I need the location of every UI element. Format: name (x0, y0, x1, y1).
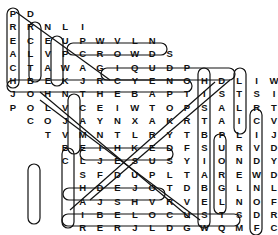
grid-cell[interactable]: G (180, 221, 194, 234)
grid-cell[interactable]: V (58, 101, 72, 114)
grid-cell[interactable]: E (145, 74, 159, 87)
grid-cell[interactable]: L (232, 74, 246, 87)
grid-cell[interactable]: D (250, 208, 264, 221)
grid-cell[interactable]: R (180, 114, 194, 127)
grid-cell[interactable]: C (6, 61, 20, 74)
grid-cell[interactable]: O (180, 74, 194, 87)
grid-cell[interactable]: K (128, 141, 142, 154)
grid-cell[interactable]: T (110, 128, 124, 141)
grid-cell[interactable]: H (128, 195, 142, 208)
grid-cell[interactable]: N (163, 74, 177, 87)
grid-cell[interactable]: S (197, 101, 211, 114)
grid-cell[interactable]: L (163, 168, 177, 181)
grid-cell[interactable]: R (76, 221, 90, 234)
grid-cell[interactable]: G (215, 181, 229, 194)
grid-cell[interactable]: H (93, 87, 107, 100)
grid-cell[interactable]: I (93, 141, 107, 154)
grid-cell[interactable]: O (250, 195, 264, 208)
grid-cell[interactable]: W (197, 221, 211, 234)
grid-cell[interactable]: N (110, 114, 124, 127)
grid-cell[interactable]: S (250, 87, 264, 100)
grid-cell[interactable]: A (215, 101, 229, 114)
grid-cell[interactable]: S (110, 195, 124, 208)
grid-cell[interactable]: D (180, 181, 194, 194)
grid-cell[interactable]: N (58, 87, 72, 100)
grid-cell[interactable]: D (110, 168, 124, 181)
grid-cell[interactable]: E (145, 141, 159, 154)
grid-cell[interactable]: N (232, 154, 246, 167)
grid-cell[interactable]: C (58, 154, 72, 167)
grid-cell[interactable]: L (232, 181, 246, 194)
grid-cell[interactable]: P (58, 47, 72, 60)
grid-cell[interactable]: C (23, 114, 37, 127)
grid-cell[interactable]: P (145, 168, 159, 181)
grid-cell[interactable]: D (250, 154, 264, 167)
grid-cell[interactable]: U (58, 34, 72, 47)
grid-cell[interactable]: P (6, 101, 20, 114)
grid-cell[interactable]: N (232, 195, 246, 208)
grid-cell[interactable]: I (197, 87, 211, 100)
grid-cell[interactable]: D (93, 181, 107, 194)
grid-cell[interactable]: D (163, 221, 177, 234)
grid-cell[interactable]: I (232, 114, 246, 127)
grid-cell[interactable]: A (215, 114, 229, 127)
grid-cell[interactable]: E (110, 87, 124, 100)
grid-cell[interactable]: V (180, 195, 194, 208)
grid-cell[interactable]: M (232, 221, 246, 234)
grid-cell[interactable]: B (93, 208, 107, 221)
grid-cell[interactable]: E (76, 141, 90, 154)
grid-cell[interactable]: I (250, 74, 264, 87)
grid-cell[interactable]: T (41, 128, 55, 141)
grid-cell[interactable]: S (215, 87, 229, 100)
grid-cell[interactable]: T (197, 114, 211, 127)
grid-cell[interactable]: B (128, 87, 142, 100)
grid-cell[interactable]: J (267, 128, 278, 141)
grid-cell[interactable]: R (6, 20, 20, 33)
grid-cell[interactable]: C (110, 74, 124, 87)
grid-cell[interactable]: B (197, 181, 211, 194)
grid-cell[interactable]: C (163, 208, 177, 221)
grid-cell[interactable]: I (110, 61, 124, 74)
grid-cell[interactable]: S (197, 141, 211, 154)
grid-cell[interactable]: L (58, 20, 72, 33)
grid-cell[interactable]: I (76, 208, 90, 221)
grid-cell[interactable]: N (93, 128, 107, 141)
grid-cell[interactable]: J (128, 221, 142, 234)
grid-cell[interactable]: R (250, 101, 264, 114)
grid-cell[interactable]: R (110, 221, 124, 234)
grid-cell[interactable]: O (215, 154, 229, 167)
grid-cell[interactable]: V (41, 47, 55, 60)
grid-cell[interactable]: S (197, 208, 211, 221)
grid-cell[interactable]: R (23, 20, 37, 33)
grid-cell[interactable]: D (145, 47, 159, 60)
grid-cell[interactable]: Y (163, 128, 177, 141)
grid-cell[interactable]: D (23, 7, 37, 20)
grid-cell[interactable]: B (58, 141, 72, 154)
grid-cell[interactable]: V (58, 128, 72, 141)
grid-cell[interactable]: L (145, 221, 159, 234)
grid-cell[interactable]: D (215, 74, 229, 87)
grid-cell[interactable]: I (250, 128, 264, 141)
grid-cell[interactable]: E (41, 74, 55, 87)
grid-cell[interactable]: L (267, 181, 278, 194)
grid-cell[interactable]: R (93, 47, 107, 60)
grid-cell[interactable]: H (6, 74, 20, 87)
grid-cell[interactable]: J (93, 195, 107, 208)
grid-cell[interactable]: R (267, 208, 278, 221)
grid-cell[interactable]: K (163, 114, 177, 127)
grid-cell[interactable]: A (41, 61, 55, 74)
grid-cell[interactable]: O (145, 208, 159, 221)
grid-cell[interactable]: T (267, 101, 278, 114)
grid-cell[interactable]: T (23, 61, 37, 74)
grid-cell[interactable]: F (250, 221, 264, 234)
grid-cell[interactable]: J (6, 87, 20, 100)
grid-cell[interactable]: W (128, 47, 142, 60)
grid-cell[interactable]: R (145, 128, 159, 141)
grid-cell[interactable]: R (215, 168, 229, 181)
grid-cell[interactable]: O (23, 101, 37, 114)
grid-cell[interactable]: D (267, 141, 278, 154)
grid-cell[interactable]: L (232, 128, 246, 141)
grid-cell[interactable]: S (76, 168, 90, 181)
grid-cell[interactable]: C (76, 101, 90, 114)
grid-cell[interactable]: U (145, 154, 159, 167)
